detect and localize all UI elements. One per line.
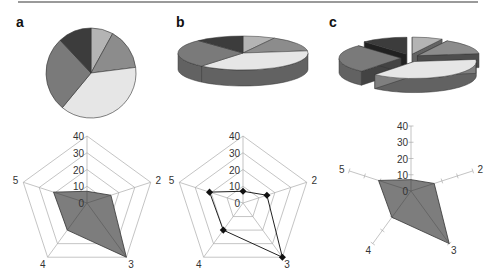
radar-tick-label: 0: [402, 186, 408, 197]
radar-tick-label: 10: [73, 181, 85, 192]
radar-tick-label: 0: [78, 198, 84, 209]
radar-axis-label-5: 5: [13, 175, 19, 186]
pie-chart-b: [178, 36, 308, 86]
radar-tick-label: 30: [397, 137, 409, 148]
radar-tick: [380, 229, 384, 232]
radar-axis-label-4: 4: [365, 245, 371, 256]
radar-tick-label: 30: [229, 148, 241, 159]
radar-series-fill: [379, 180, 450, 244]
radar-marker: [239, 188, 246, 195]
radar-tick-label: 20: [397, 154, 409, 165]
radar-tick-label: 40: [73, 131, 85, 142]
radar-tick-label: 0: [234, 198, 240, 209]
radar-axis-label-3: 3: [284, 259, 290, 270]
radar-tick-label: 30: [73, 148, 85, 159]
pie-chart-a: [46, 28, 136, 118]
radar-axis-label-5: 5: [169, 175, 175, 186]
radar-axis-label-5: 5: [339, 164, 345, 175]
radar-series-line: [210, 191, 283, 257]
radar-marker: [220, 227, 227, 234]
radar-marker: [263, 192, 270, 199]
charts-canvas: 010203040234501020304023450102030402345: [0, 0, 496, 272]
radar-axis-label-3: 3: [451, 245, 457, 256]
radar-axis-label-2: 2: [477, 164, 483, 175]
radar-tick: [371, 242, 375, 245]
radar-axis-label-2: 2: [156, 175, 162, 186]
radar-series-fill: [54, 191, 127, 257]
radar-tick-label: 20: [73, 165, 85, 176]
radar-tick-label: 10: [229, 181, 241, 192]
radar-tick-label: 10: [397, 170, 409, 181]
radar-axis-label-4: 4: [40, 259, 46, 270]
radar-tick-label: 40: [229, 131, 241, 142]
radar-tick-label: 20: [229, 165, 241, 176]
radar-axis-label-2: 2: [312, 175, 318, 186]
radar-tick-label: 40: [397, 121, 409, 132]
radar-axis-label-4: 4: [196, 259, 202, 270]
radar-chart-b: 0102030402345: [169, 131, 318, 270]
radar-chart-c: 0102030402345: [339, 121, 483, 256]
radar-axis-label-3: 3: [128, 259, 134, 270]
radar-chart-a: 0102030402345: [13, 131, 162, 270]
pie-chart-c: [339, 37, 479, 92]
